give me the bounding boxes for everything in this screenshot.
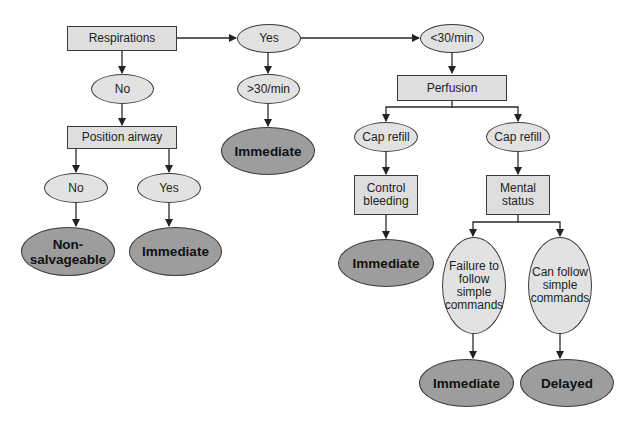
delayed-outcome: Delayed (520, 359, 614, 407)
control-bleeding-box: Control bleeding (354, 175, 418, 215)
perfusion-box: Perfusion (397, 75, 507, 101)
failure-to-follow-oval: Failure to follow simple commands (442, 237, 506, 334)
airway-no-oval: No (44, 173, 108, 203)
non-salvageable-outcome: Non-salvageable (21, 227, 115, 276)
airway-immediate-outcome: Immediate (129, 227, 222, 276)
airway-yes-oval: Yes (137, 173, 201, 203)
over-30-oval: >30/min (237, 74, 300, 104)
respirations-box: Respirations (67, 26, 177, 51)
cap-refill-left-oval: Cap refill (354, 122, 418, 152)
respirations-no-oval: No (91, 74, 154, 104)
cap-refill-right-oval: Cap refill (486, 122, 550, 152)
over-30-immediate-outcome: Immediate (221, 127, 315, 175)
mental-status-box: Mental status (486, 175, 550, 215)
under-30-oval: <30/min (420, 24, 484, 53)
bleeding-immediate-outcome: Immediate (338, 239, 434, 287)
mental-immediate-outcome: Immediate (419, 359, 514, 407)
can-follow-oval: Can follow simple commands (528, 237, 592, 334)
position-airway-box: Position airway (67, 126, 177, 149)
respirations-yes-oval: Yes (237, 24, 301, 53)
